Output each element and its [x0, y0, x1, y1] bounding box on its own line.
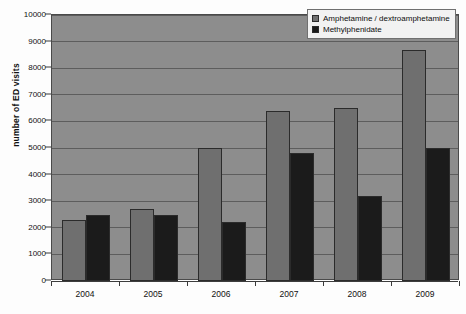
gridline: [52, 148, 458, 149]
x-axis-tick-mark: [255, 281, 256, 286]
legend-item[interactable]: Amphetamine / dextroamphetamine: [312, 13, 450, 24]
x-axis-tick-label: 2005: [123, 289, 183, 299]
x-axis-tick-label: 2008: [327, 289, 387, 299]
legend-label: Amphetamine / dextroamphetamine: [323, 13, 450, 24]
legend-swatch-icon: [312, 15, 319, 22]
bar: [130, 209, 154, 281]
legend-item[interactable]: Methylphenidate: [312, 24, 450, 35]
x-axis-tick-label: 2004: [55, 289, 115, 299]
gridline: [52, 94, 458, 95]
y-axis-tick-label: 3000: [0, 196, 46, 205]
y-axis-tick-label: 0: [0, 276, 46, 285]
x-axis-tick-mark: [187, 281, 188, 286]
y-axis-tick-label: 5000: [0, 143, 46, 152]
x-axis-tick-label: 2009: [395, 289, 455, 299]
legend[interactable]: Amphetamine / dextroamphetamineMethylphe…: [307, 9, 456, 39]
bar: [198, 148, 222, 281]
bar: [358, 196, 382, 281]
x-axis-tick-mark: [391, 281, 392, 286]
bar: [222, 222, 246, 281]
y-axis-tick-label: 4000: [0, 169, 46, 178]
bar: [402, 50, 426, 281]
gridline: [52, 254, 458, 255]
y-axis-tick-label: 10000: [0, 10, 46, 19]
gridline: [52, 121, 458, 122]
y-axis-tick-label: 8000: [0, 63, 46, 72]
gridline: [52, 174, 458, 175]
bar-chart: number of ED visits 01000200030004000500…: [0, 0, 466, 314]
bar: [426, 148, 450, 281]
y-axis-tick-label: 9000: [0, 36, 46, 45]
x-axis-tick-mark: [119, 281, 120, 286]
bar: [266, 111, 290, 281]
gridline: [52, 227, 458, 228]
y-axis-tick-label: 7000: [0, 89, 46, 98]
gridline: [52, 68, 458, 69]
y-axis-tick-label: 1000: [0, 249, 46, 258]
y-axis-tick-label: 6000: [0, 116, 46, 125]
y-axis-tick-label: 2000: [0, 222, 46, 231]
bar: [334, 108, 358, 281]
bar: [86, 215, 110, 282]
legend-swatch-icon: [312, 26, 319, 33]
bar: [290, 153, 314, 281]
gridline: [52, 201, 458, 202]
bar: [154, 215, 178, 282]
x-axis-tick-mark: [51, 281, 52, 286]
x-axis-tick-label: 2007: [259, 289, 319, 299]
gridline: [52, 41, 458, 42]
x-axis-tick-mark: [459, 281, 460, 286]
plot-area: [51, 14, 459, 280]
bar: [62, 220, 86, 281]
x-axis-tick-mark: [323, 281, 324, 286]
x-axis-tick-label: 2006: [191, 289, 251, 299]
legend-label: Methylphenidate: [323, 24, 382, 35]
